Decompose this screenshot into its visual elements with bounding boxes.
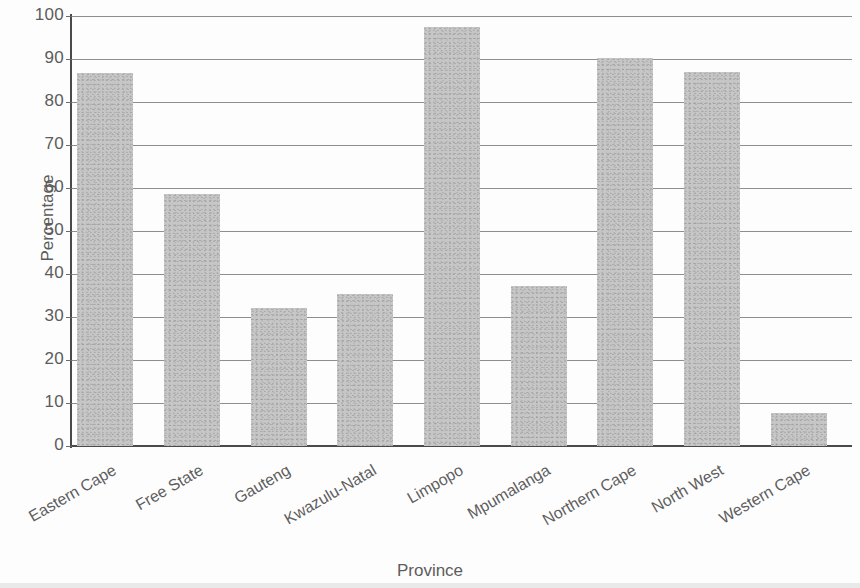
bar [597,58,653,446]
y-axis-tick-label: 100 [0,5,64,25]
gridline [72,16,852,17]
y-axis-tick-label: 90 [0,48,64,68]
y-axis-title: Percentage [38,158,58,278]
bar [337,294,393,446]
y-axis-tick-label: 0 [0,435,64,455]
bar [771,413,827,446]
bar-chart: 1009080706050403020100 Eastern CapeFree … [0,0,860,588]
bar [684,72,740,446]
bar [424,27,480,446]
bar [77,73,133,446]
y-axis-tick-label: 20 [0,349,64,369]
y-axis-tick-label: 30 [0,306,64,326]
bar [511,286,567,446]
bar [164,194,220,446]
y-axis-tick-mark [66,446,72,447]
page-edge-band [0,583,860,588]
plot-area [72,16,852,446]
y-axis-tick-label: 10 [0,392,64,412]
x-axis-title: Province [0,561,860,581]
y-axis-tick-label: 70 [0,134,64,154]
bar [251,308,307,446]
y-axis-tick-label: 80 [0,91,64,111]
